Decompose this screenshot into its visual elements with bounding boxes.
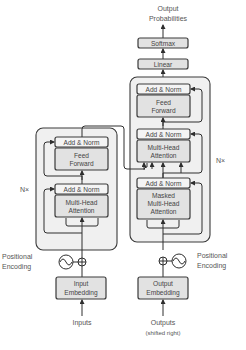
svg-text:Masked: Masked <box>152 192 175 199</box>
softmax-block: Softmax <box>138 38 188 48</box>
svg-text:Output: Output <box>153 280 173 288</box>
decoder-nx-label: N× <box>216 157 225 164</box>
output-probabilities-label: Output Probabilities <box>149 5 188 22</box>
decoder-positional-encoding-icon <box>172 254 186 268</box>
encoder-multi-head-attention: Multi-Head Attention <box>55 195 108 217</box>
svg-text:Feed: Feed <box>74 152 89 159</box>
decoder-feed-forward: Feed Forward <box>137 95 190 117</box>
encoder-feed-forward: Feed Forward <box>55 148 108 170</box>
svg-text:(shifted right): (shifted right) <box>145 330 180 336</box>
svg-text:Forward: Forward <box>69 160 94 167</box>
transformer-diagram: Output Probabilities Softmax Linear Add … <box>0 0 246 350</box>
encoder-add-norm-bottom: Add & Norm <box>55 184 108 194</box>
svg-text:Add & Norm: Add & Norm <box>146 180 182 187</box>
decoder-add-norm-middle: Add & Norm <box>137 129 190 139</box>
encoder-positional-encoding-label: Positional Encoding <box>2 253 33 271</box>
svg-text:Forward: Forward <box>151 107 176 114</box>
decoder-multi-head-attention: Multi-Head Attention <box>137 140 190 162</box>
svg-text:Encoding: Encoding <box>197 262 226 270</box>
svg-text:Embedding: Embedding <box>64 289 98 297</box>
output-embedding-block: Output Embedding <box>138 277 188 299</box>
svg-text:Add & Norm: Add & Norm <box>146 86 182 93</box>
svg-text:Feed: Feed <box>156 99 171 106</box>
decoder-positional-encoding-label: Positional Encoding <box>197 252 228 270</box>
svg-text:Positional: Positional <box>197 252 228 259</box>
svg-text:Linear: Linear <box>154 61 173 68</box>
svg-text:Softmax: Softmax <box>151 40 176 47</box>
svg-text:Encoding: Encoding <box>2 263 31 271</box>
svg-text:Probabilities: Probabilities <box>149 15 188 22</box>
svg-text:Add & Norm: Add & Norm <box>64 186 100 193</box>
svg-text:Multi-Head: Multi-Head <box>148 144 180 151</box>
decoder-add-norm-bottom: Add & Norm <box>137 178 190 188</box>
svg-text:Embedding: Embedding <box>146 289 180 297</box>
input-embedding-block: Input Embedding <box>56 277 106 299</box>
svg-text:Output: Output <box>157 5 178 13</box>
decoder-add-norm-top: Add & Norm <box>137 84 190 94</box>
inputs-label: Inputs <box>72 319 92 327</box>
svg-text:Attention: Attention <box>150 152 176 159</box>
linear-block: Linear <box>138 59 188 69</box>
svg-text:Multi-Head: Multi-Head <box>66 199 98 206</box>
encoder-nx-label: N× <box>20 186 29 193</box>
svg-text:Positional: Positional <box>2 253 33 260</box>
svg-text:Add & Norm: Add & Norm <box>64 139 100 146</box>
svg-text:Add & Norm: Add & Norm <box>146 131 182 138</box>
svg-text:Outputs: Outputs <box>151 319 176 327</box>
svg-text:Attention: Attention <box>68 207 94 214</box>
svg-text:Input: Input <box>74 280 89 288</box>
svg-text:Multi-Head: Multi-Head <box>148 200 180 207</box>
encoder-positional-encoding-icon <box>59 255 73 269</box>
svg-text:Attention: Attention <box>150 208 176 215</box>
outputs-label: Outputs (shifted right) <box>145 319 180 336</box>
decoder-masked-multi-head-attention: Masked Multi-Head Attention <box>137 189 190 219</box>
encoder-add-norm-top: Add & Norm <box>55 137 108 147</box>
